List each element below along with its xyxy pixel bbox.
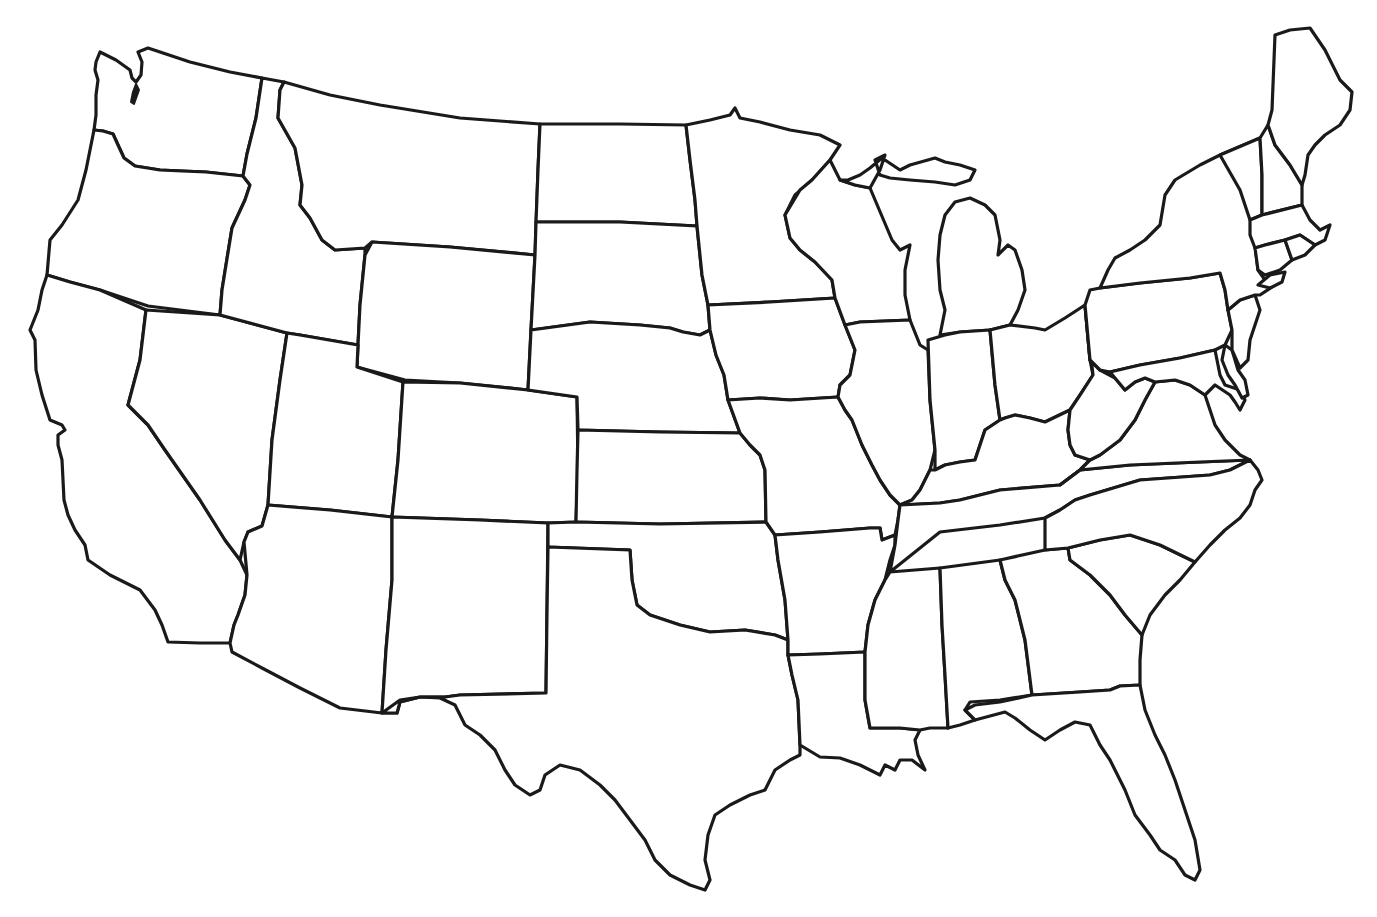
us-map-svg <box>0 0 1377 917</box>
state-michigan-lower <box>938 198 1025 335</box>
state-wyoming <box>357 242 535 390</box>
state-michigan-upper <box>840 155 975 188</box>
state-kansas <box>576 430 766 524</box>
state-colorado <box>392 382 578 523</box>
state-florida <box>965 685 1200 880</box>
state-montana <box>278 82 540 255</box>
state-mississippi <box>865 568 948 730</box>
state-iowa <box>708 298 855 400</box>
state-new-mexico <box>382 517 548 713</box>
state-arizona <box>230 505 392 713</box>
us-outline-map <box>0 0 1377 917</box>
state-south-dakota <box>531 222 710 335</box>
state-north-dakota <box>536 124 697 226</box>
